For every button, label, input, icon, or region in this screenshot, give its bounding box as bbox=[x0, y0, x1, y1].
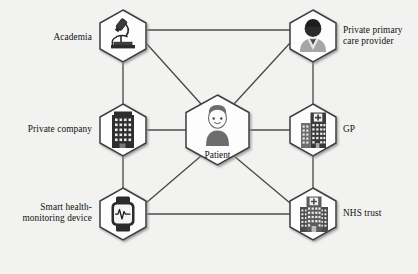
edge-private-primary-patient bbox=[234, 43, 290, 104]
office-building-icon bbox=[112, 112, 134, 149]
node-gp[interactable] bbox=[290, 104, 336, 156]
label-gp: GP bbox=[343, 124, 415, 135]
node-private-primary-care-provider[interactable] bbox=[290, 10, 336, 62]
node-smart-health-monitoring-device[interactable] bbox=[100, 188, 146, 240]
edge-academia-patient bbox=[146, 43, 201, 104]
node-private-company[interactable] bbox=[100, 104, 146, 156]
node-academia[interactable] bbox=[100, 10, 146, 62]
edge-smart-device-patient bbox=[146, 156, 201, 203]
label-academia: Academia bbox=[8, 32, 92, 43]
node-patient[interactable]: Patient bbox=[186, 95, 249, 165]
label-nhs-trust: NHS trust bbox=[343, 208, 415, 219]
edge-nhs-trust-patient bbox=[234, 156, 290, 203]
label-smart-health-monitoring-device: Smart health- monitoring device bbox=[4, 202, 92, 224]
node-nhs-trust[interactable] bbox=[290, 188, 336, 240]
label-private-primary-care-provider: Private primary care provider bbox=[343, 25, 417, 47]
network-diagram-figure: Patient bbox=[0, 0, 418, 274]
patient-caption: Patient bbox=[205, 150, 231, 160]
label-private-company: Private company bbox=[4, 124, 92, 135]
